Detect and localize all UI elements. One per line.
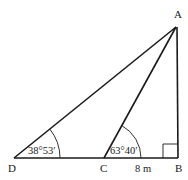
segment-DA [14, 27, 176, 158]
point-label-D: D [8, 162, 16, 174]
point-label-A: A [174, 8, 182, 20]
segment-AB [177, 27, 178, 158]
triangle-diagram: A B C D 38°53′ 63°40′ 8 m [0, 0, 188, 180]
right-angle-marker [163, 144, 178, 158]
point-label-C: C [100, 162, 107, 174]
angle-label-C: 63°40′ [110, 145, 138, 156]
point-label-B: B [175, 162, 182, 174]
measurement-label-CB: 8 m [135, 163, 151, 174]
angle-label-D: 38°53′ [28, 145, 56, 156]
segment-CA [104, 27, 176, 158]
